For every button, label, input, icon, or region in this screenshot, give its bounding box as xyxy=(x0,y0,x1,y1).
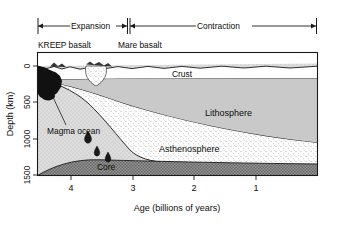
magma-ocean-label: Magma ocean xyxy=(47,126,100,136)
lithosphere-label: Lithosphere xyxy=(205,108,252,118)
x-axis-title: Age (billions of years) xyxy=(134,203,221,213)
expansion-label: Expansion xyxy=(71,21,110,31)
y-tick-label-0: 0 xyxy=(22,63,32,68)
kreep-basalt-label: KREEP basalt xyxy=(38,40,92,50)
core-label: Core xyxy=(97,162,115,172)
y-tick-label-1500: 1500 xyxy=(22,165,32,184)
x-tick-label-2: 2 xyxy=(191,183,196,193)
asthenosphere-label: Asthenosphere xyxy=(159,144,220,154)
contraction-label: Contraction xyxy=(197,21,240,31)
y-tick-label-500: 500 xyxy=(22,95,32,109)
mare-basalt-label: Mare basalt xyxy=(118,40,162,50)
x-tick-label-4: 4 xyxy=(68,183,73,193)
y-axis-title: Depth (km) xyxy=(5,92,15,137)
x-tick-label-1: 1 xyxy=(253,183,258,193)
y-tick-label-1000: 1000 xyxy=(22,129,32,148)
thermal-evolution-figure: Expansion Contraction KREEP basalt Mare … xyxy=(0,0,340,226)
crust-label: Crust xyxy=(172,69,193,79)
x-tick-label-3: 3 xyxy=(130,183,135,193)
